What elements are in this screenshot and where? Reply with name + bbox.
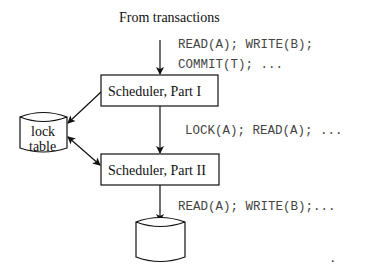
scheduler-part-1-label: Scheduler, Part I bbox=[108, 84, 201, 99]
lock-table-part2-arrow bbox=[68, 137, 100, 165]
database-cylinder bbox=[136, 218, 185, 262]
scheduler-diagram: From transactions READ(A); WRITE(B); COM… bbox=[0, 0, 376, 280]
lock-table-label-1: lock bbox=[31, 124, 55, 139]
scheduler-part-2-label: Scheduler, Part II bbox=[108, 163, 206, 178]
input-request-line-1: READ(A); WRITE(B); bbox=[178, 38, 313, 52]
between-requests: LOCK(A); READ(A); ... bbox=[185, 124, 343, 138]
output-requests: READ(A); WRITE(B);... bbox=[178, 200, 336, 214]
input-request-line-2: COMMIT(T); ... bbox=[178, 58, 283, 72]
lock-table-label-2: table bbox=[29, 139, 56, 154]
source-label: From transactions bbox=[119, 10, 220, 25]
stray-dot: . bbox=[331, 250, 335, 265]
part1-to-lock-table-arrow bbox=[68, 92, 101, 123]
